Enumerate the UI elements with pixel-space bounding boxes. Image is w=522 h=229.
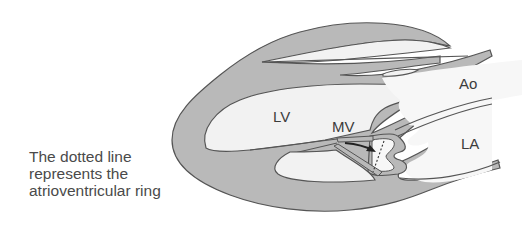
caption-line-3: atrioventricular ring	[29, 182, 199, 199]
heart-diagram: LV MV Ao LA The dotted line represents t…	[0, 0, 522, 229]
caption-line-2: represents the	[29, 165, 199, 182]
label-lv: LV	[273, 108, 290, 125]
label-mv: MV	[332, 118, 355, 135]
caption-line-1: The dotted line	[29, 148, 199, 165]
caption: The dotted line represents the atriovent…	[29, 148, 199, 199]
label-la: LA	[461, 135, 479, 152]
label-ao: Ao	[459, 75, 477, 92]
